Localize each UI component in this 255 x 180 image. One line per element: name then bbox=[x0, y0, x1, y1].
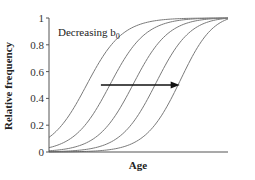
arrow bbox=[101, 82, 180, 89]
y-tick-label: 0 bbox=[39, 146, 45, 158]
y-tick-label: 0.2 bbox=[30, 119, 44, 131]
y-tick-label: 1 bbox=[39, 12, 45, 24]
y-tick-label: 0.6 bbox=[30, 66, 44, 78]
chart: 00.20.40.60.81 Decreasing b0 Age Relativ… bbox=[0, 0, 255, 180]
y-axis-title: Relative frequency bbox=[2, 41, 14, 130]
x-axis-title: Age bbox=[129, 159, 147, 171]
y-tick-label: 0.4 bbox=[30, 92, 44, 104]
annotation-label: Decreasing b0 bbox=[58, 26, 120, 41]
y-ticks: 00.20.40.60.81 bbox=[30, 12, 49, 158]
y-tick-label: 0.8 bbox=[30, 39, 44, 51]
arrow-head-icon bbox=[171, 82, 180, 89]
